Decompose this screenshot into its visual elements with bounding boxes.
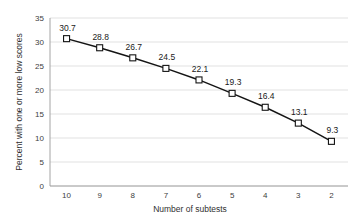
y-tick-label: 35 (35, 14, 44, 23)
data-point-label: 30.7 (59, 23, 76, 33)
data-point-label: 9.3 (327, 125, 339, 135)
data-point-label: 24.5 (159, 52, 176, 62)
x-tick-label: 8 (131, 191, 136, 200)
data-point-label: 16.4 (258, 91, 275, 101)
chart-container: 05101520253035 1098765432 30.728.826.724… (0, 0, 361, 221)
data-point-marker (97, 45, 103, 51)
x-tick-label: 2 (329, 191, 334, 200)
axis-lines (50, 18, 348, 186)
data-point-marker (64, 36, 70, 42)
data-point-marker (295, 120, 301, 126)
x-tick-label: 10 (62, 191, 71, 200)
x-tick-label: 4 (263, 191, 268, 200)
data-point-label: 26.7 (126, 42, 143, 52)
data-point-marker (262, 104, 268, 110)
data-point-marker (229, 90, 235, 96)
x-tick-label: 6 (197, 191, 202, 200)
y-tick-label: 10 (35, 134, 44, 143)
data-point-marker (163, 65, 169, 71)
y-axis-title: Percent with one or more low scores (14, 33, 24, 170)
x-tick-label: 7 (164, 191, 169, 200)
x-tick-label: 5 (230, 191, 235, 200)
x-axis-title: Number of subtests (153, 204, 227, 214)
data-point-marker (328, 138, 334, 144)
x-tick-label: 9 (97, 191, 102, 200)
data-point-marker (196, 77, 202, 83)
y-tick-label: 5 (40, 158, 45, 167)
x-tick-label: 3 (296, 191, 301, 200)
y-tick-label: 20 (35, 86, 44, 95)
gridlines (50, 18, 348, 186)
y-tick-label: 25 (35, 62, 44, 71)
y-tick-label: 0 (40, 182, 45, 191)
x-axis-tick-labels: 1098765432 (62, 191, 334, 200)
line-chart: 05101520253035 1098765432 30.728.826.724… (0, 0, 361, 221)
y-tick-label: 30 (35, 38, 44, 47)
data-point-label: 22.1 (192, 64, 209, 74)
data-point-label: 13.1 (291, 107, 308, 117)
data-point-label: 28.8 (92, 32, 109, 42)
data-point-label: 19.3 (225, 77, 242, 87)
data-point-marker (130, 55, 136, 61)
y-tick-label: 15 (35, 110, 44, 119)
y-axis-tick-labels: 05101520253035 (35, 14, 44, 191)
